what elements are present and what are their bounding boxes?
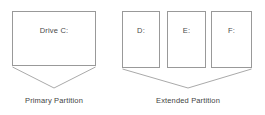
drive-c-label: Drive C: bbox=[12, 26, 96, 35]
drive-e-label: E: bbox=[167, 26, 206, 35]
primary-partition-caption: Primary Partition bbox=[4, 96, 104, 105]
drive-d-label: D: bbox=[122, 26, 160, 35]
extended-partition-caption: Extended Partition bbox=[130, 96, 246, 105]
drive-d-box bbox=[123, 12, 160, 68]
drive-f-box bbox=[212, 12, 252, 68]
extended-partition-bracket bbox=[123, 69, 252, 88]
drive-f-label: F: bbox=[211, 26, 252, 35]
partition-diagram: Drive C: D: E: F: Primary Partition Exte… bbox=[0, 0, 265, 115]
drive-e-box bbox=[168, 12, 206, 68]
primary-partition-bracket bbox=[13, 67, 96, 88]
drive-c-box bbox=[13, 12, 96, 66]
